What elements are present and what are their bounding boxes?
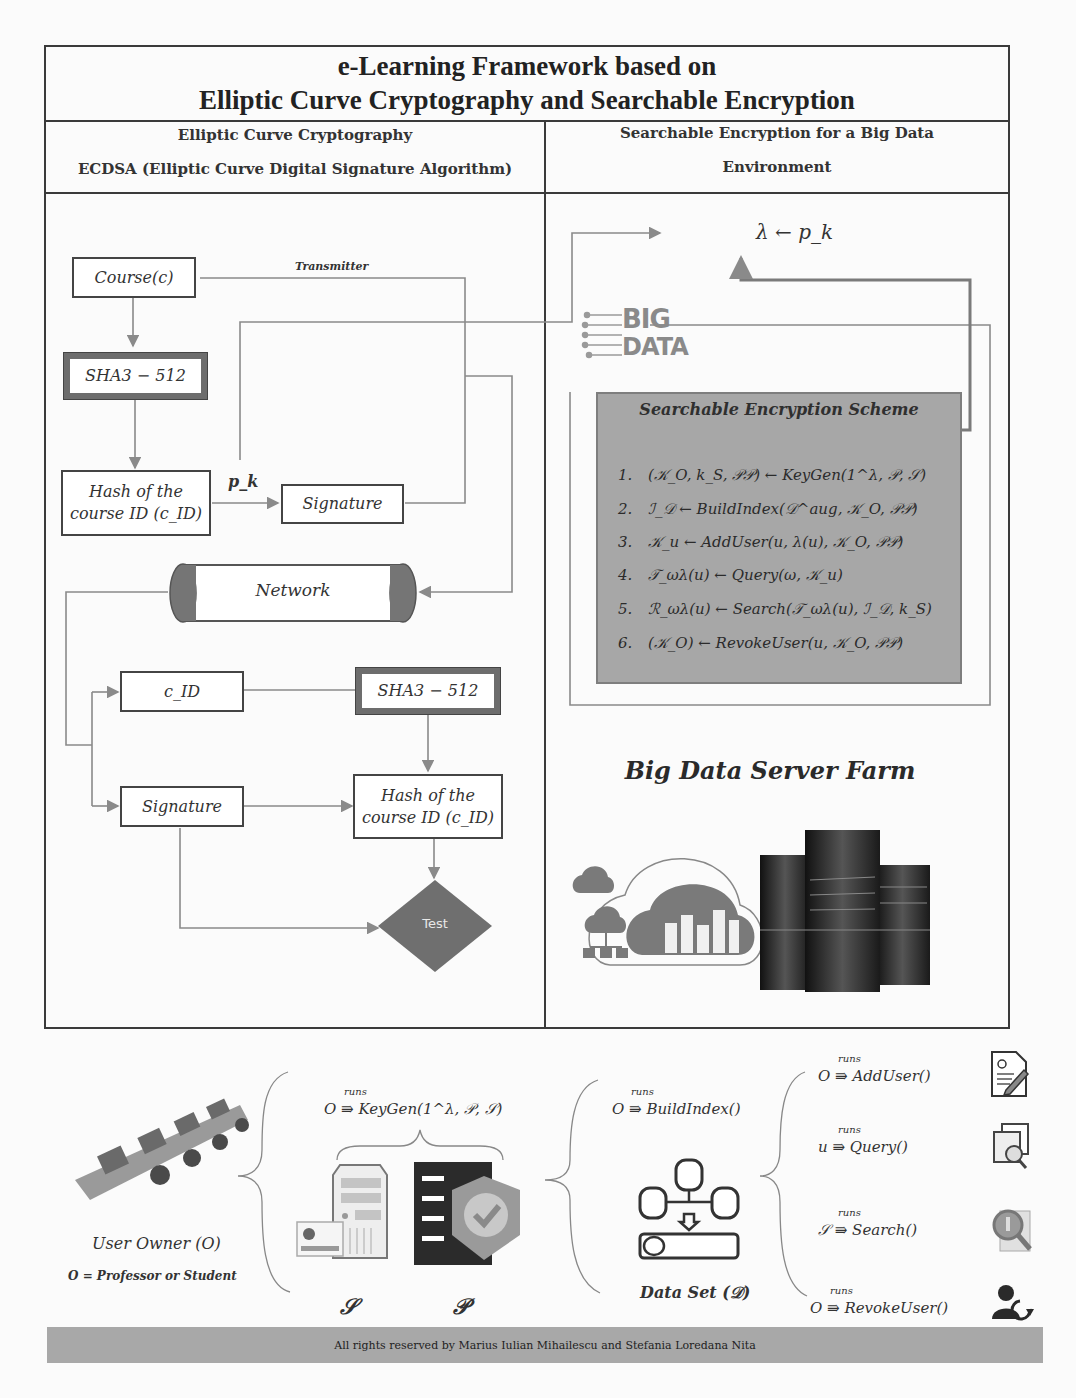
server-id-card-icon	[295, 1160, 395, 1260]
search-call: 𝒮 ⇛ Search()	[818, 1221, 917, 1239]
dataset-database-icon	[636, 1158, 746, 1263]
buildindex-call: O ⇛ BuildIndex()	[612, 1100, 741, 1118]
query-call: u ⇛ Query()	[818, 1138, 908, 1156]
search-magnifier-icon	[988, 1205, 1033, 1255]
s-label: 𝒮	[340, 1293, 357, 1319]
p-label: 𝒫	[453, 1293, 469, 1319]
dataset-label: Data Set (𝒟)	[640, 1283, 750, 1302]
runs-label-revokeuser: runs	[830, 1285, 853, 1296]
adduser-call: O ⇛ AddUser()	[818, 1067, 931, 1085]
query-window-icon	[992, 1122, 1032, 1172]
runs-label-buildindex: runs	[631, 1086, 654, 1097]
keygen-call: O ⇛ KeyGen(1^λ, 𝒫, 𝒮)	[324, 1100, 502, 1118]
runs-label-search: runs	[838, 1207, 861, 1218]
add-user-document-icon	[990, 1050, 1030, 1100]
runs-label-adduser: runs	[838, 1053, 861, 1064]
braces	[0, 0, 1076, 1398]
shield-document-icon	[412, 1160, 524, 1270]
revokeuser-call: O ⇛ RevokeUser()	[810, 1299, 948, 1317]
runs-label-keygen: runs	[344, 1086, 367, 1097]
copyright-footer: All rights reserved by Marius Iulian Mih…	[47, 1327, 1043, 1363]
revoke-user-icon	[990, 1283, 1036, 1323]
runs-label-query: runs	[838, 1124, 861, 1135]
